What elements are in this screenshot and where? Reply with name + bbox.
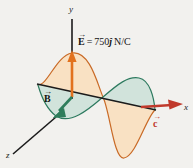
e-field-units: N/C bbox=[112, 37, 131, 47]
c-symbol-text: c bbox=[153, 118, 157, 129]
equals-sign: = bbox=[85, 37, 95, 47]
c-propagation-label: →c bbox=[153, 115, 160, 129]
electromagnetic-wave-figure: y x z →E = 750 ĵ N/C →B →c bbox=[0, 0, 193, 168]
e-field-label: →E = 750 ĵ N/C bbox=[78, 33, 131, 47]
x-axis-label: x bbox=[184, 103, 188, 112]
e-field-symbol: →E bbox=[78, 33, 85, 47]
z-axis-label: z bbox=[6, 151, 10, 160]
b-field-symbol-text: B bbox=[44, 93, 51, 104]
e-vector-arrow-accent: → bbox=[78, 32, 85, 37]
y-axis-label: y bbox=[69, 5, 73, 14]
b-field-label: →B bbox=[44, 90, 51, 104]
e-field-magnitude: 750 bbox=[94, 37, 109, 47]
wave-diagram-canvas bbox=[0, 0, 193, 168]
z-axis-line bbox=[13, 117, 56, 154]
